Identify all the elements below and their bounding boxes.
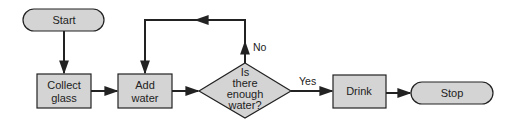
start-node: Start	[23, 9, 104, 31]
add-water-node: Add water	[118, 74, 172, 108]
decision-node: Is there enough water?	[199, 63, 291, 118]
yes-label: Yes	[299, 75, 316, 87]
decision-label-line4: water?	[227, 99, 261, 111]
drink-node: Drink	[333, 75, 386, 108]
stop-label: Stop	[441, 87, 464, 99]
edge-decision-loop-no	[145, 20, 245, 73]
collect-label-line1: Collect	[47, 79, 81, 91]
stop-node: Stop	[411, 82, 493, 104]
flowchart-canvas: No Yes Start Collect glass Add water Is …	[0, 0, 518, 128]
start-label: Start	[52, 14, 75, 26]
add-label-line2: water	[131, 92, 159, 104]
collect-glass-node: Collect glass	[37, 74, 91, 108]
drink-label: Drink	[346, 85, 372, 97]
collect-label-line2: glass	[51, 92, 77, 104]
add-label-line1: Add	[135, 79, 155, 91]
no-label: No	[253, 41, 267, 53]
